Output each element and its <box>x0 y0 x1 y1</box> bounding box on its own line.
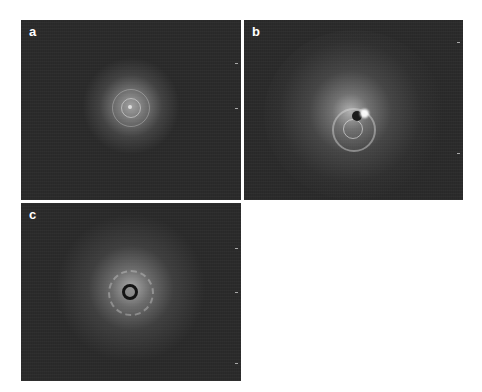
tick-mark <box>457 42 460 43</box>
panel-c-label: c <box>29 208 36 222</box>
panel-b-image: b <box>244 20 463 200</box>
tick-mark <box>235 108 238 109</box>
panel-c-image: c <box>21 203 241 381</box>
panel-a-image: a <box>21 20 241 200</box>
tick-mark <box>457 153 460 154</box>
tick-mark <box>235 248 238 249</box>
beam-stop <box>122 284 138 300</box>
center-spot <box>128 105 132 109</box>
tick-mark <box>235 292 238 293</box>
tick-mark <box>235 363 238 364</box>
panel-a-label: a <box>29 25 36 39</box>
tick-mark <box>235 63 238 64</box>
bright-spot <box>360 109 369 118</box>
inner-ring <box>343 119 363 139</box>
panel-b-label: b <box>252 25 260 39</box>
